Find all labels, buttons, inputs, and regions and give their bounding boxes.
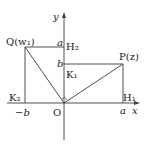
label-h2: H₂ [66,41,79,52]
tick-neg-b-x: −b [15,107,30,118]
label-k1: K₁ [66,69,77,80]
label-k2: K₂ [9,92,20,103]
tick-a-x: a [120,105,126,116]
label-h1: H₁ [123,92,136,103]
complex-plane-diagram: Q(w₁) P(z) a H₂ b K₁ K₂ H₁ O −b a x y [0,0,149,145]
segment-oq [25,47,64,103]
tick-b-y: b [57,58,63,69]
y-axis-label: y [52,11,59,22]
tick-a-y: a [57,37,63,48]
label-origin: O [53,107,61,118]
diagram-canvas: Q(w₁) P(z) a H₂ b K₁ K₂ H₁ O −b a x y [0,0,149,145]
x-axis-label: x [132,105,138,116]
label-p: P(z) [119,51,139,62]
label-q: Q(w₁) [6,36,35,47]
y-axis-arrow-icon [62,12,66,18]
